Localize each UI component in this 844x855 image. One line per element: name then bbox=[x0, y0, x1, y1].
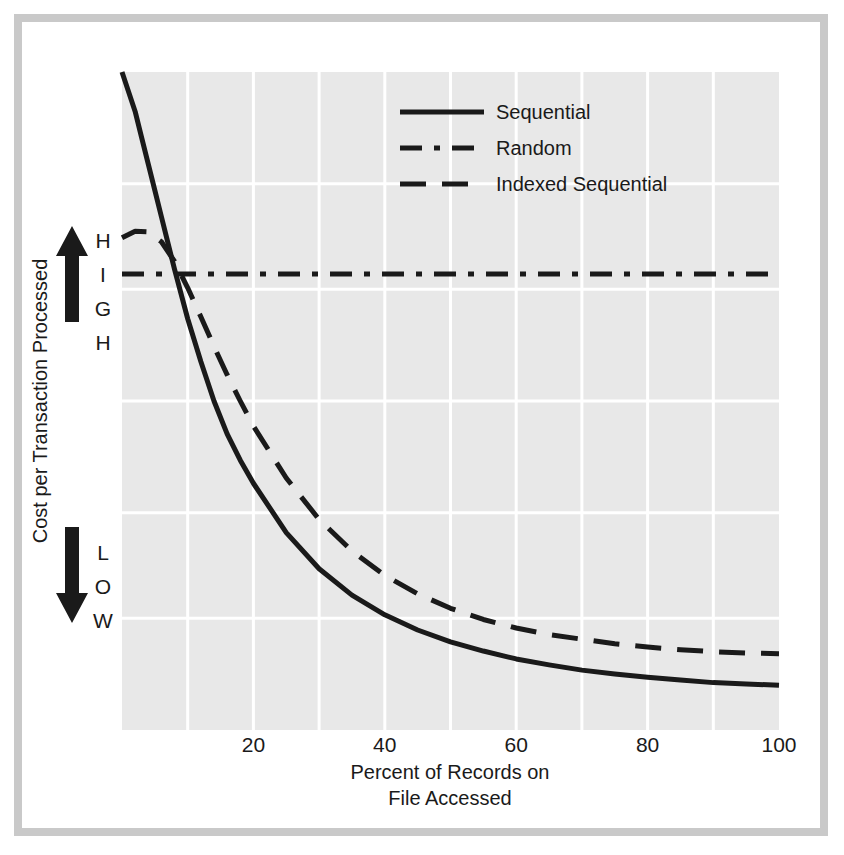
x-tick-label: 80 bbox=[636, 733, 659, 756]
high-letter: H bbox=[95, 229, 110, 252]
low-letter: O bbox=[95, 575, 111, 598]
chart-canvas: 20406080100 Percent of Records on File A… bbox=[0, 0, 844, 855]
chart-svg: 20406080100 Percent of Records on File A… bbox=[0, 0, 844, 855]
low-letter: L bbox=[97, 541, 109, 564]
x-tick-label: 60 bbox=[505, 733, 528, 756]
x-axis-title-line-1: Percent of Records on bbox=[351, 761, 550, 783]
x-tick-label: 100 bbox=[761, 733, 796, 756]
y-axis-title: Cost per Transaction Processed bbox=[29, 259, 51, 544]
high-letter: H bbox=[95, 331, 110, 354]
x-tick-label: 40 bbox=[373, 733, 396, 756]
high-letter: G bbox=[95, 297, 111, 320]
low-letter: W bbox=[93, 609, 113, 632]
x-axis-title-line-2: File Accessed bbox=[388, 787, 511, 809]
up-arrow-icon bbox=[56, 226, 88, 322]
x-axis-tick-labels: 20406080100 bbox=[242, 733, 797, 756]
high-letter: I bbox=[100, 263, 106, 286]
y-scale-high-label: HIGH bbox=[95, 229, 111, 354]
figure-root: 20406080100 Percent of Records on File A… bbox=[0, 0, 844, 855]
x-tick-label: 20 bbox=[242, 733, 265, 756]
legend-label: Random bbox=[496, 137, 572, 159]
down-arrow-icon bbox=[56, 527, 88, 623]
legend-label: Indexed Sequential bbox=[496, 173, 667, 195]
legend-label: Sequential bbox=[496, 101, 591, 123]
y-scale-low-label: LOW bbox=[93, 541, 113, 632]
